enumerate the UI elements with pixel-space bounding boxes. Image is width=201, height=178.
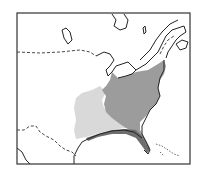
range-primary-region (102, 60, 166, 152)
range-map (0, 0, 201, 178)
caribbean-islands (156, 144, 180, 156)
map-canvas (0, 0, 201, 178)
